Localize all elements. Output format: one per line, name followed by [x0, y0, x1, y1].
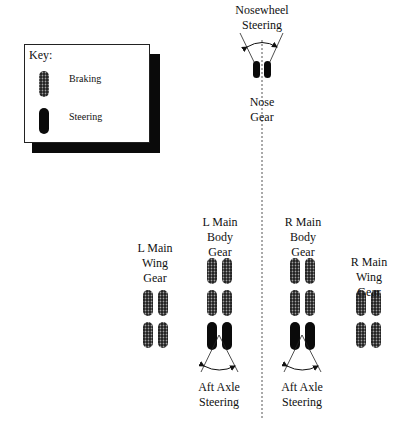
l-main-body-gear [201, 258, 238, 372]
steering-tire-icon [39, 108, 49, 134]
label-l-main-body-gear: L Main Body Gear [192, 215, 248, 260]
braking-tire-icon [39, 71, 49, 97]
key-legend: Key: Braking Steering [24, 44, 150, 143]
label-r-main-wing-gear: R Main Wing Gear [341, 255, 397, 300]
aft-steering-tire [207, 322, 217, 350]
aft-steering-tire [290, 322, 300, 350]
label-aft-axle-steering-left: Aft Axle Steering [189, 380, 249, 410]
label-l-main-wing-gear: L Main Wing Gear [127, 241, 183, 286]
key-label-steering: Steering [69, 111, 102, 122]
r-main-body-gear [284, 258, 321, 372]
l-main-wing-gear [143, 290, 168, 348]
key-symbols [38, 71, 50, 151]
label-r-main-body-gear: R Main Body Gear [275, 215, 331, 260]
aft-steering-tire [305, 322, 315, 350]
label-nosewheel-steering: Nosewheel Steering [222, 3, 302, 33]
nose-tire-right [264, 61, 271, 78]
label-aft-axle-steering-right: Aft Axle Steering [272, 380, 332, 410]
nose-tire-left [253, 61, 260, 78]
key-label-braking: Braking [69, 73, 101, 84]
label-nose-gear: Nose Gear [232, 95, 292, 125]
key-title: Key: [29, 48, 52, 63]
nose-gear [240, 33, 283, 78]
aft-steering-tire [222, 322, 232, 350]
